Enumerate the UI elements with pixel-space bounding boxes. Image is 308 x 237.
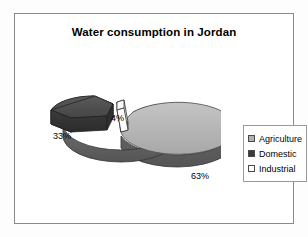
- legend-label-agriculture: Agriculture: [259, 134, 302, 144]
- chart-frame: Water consumption in Jordan: [14, 13, 294, 224]
- pie-label-industrial: 4%: [111, 113, 124, 123]
- chart-page: Water consumption in Jordan: [0, 0, 308, 237]
- legend-label-industrial: Industrial: [259, 164, 296, 174]
- legend-swatch-agriculture: [248, 135, 255, 142]
- chart-legend: Agriculture Domestic Industrial: [243, 125, 307, 182]
- legend-item-agriculture: Agriculture: [248, 131, 303, 146]
- chart-title: Water consumption in Jordan: [15, 26, 293, 38]
- legend-item-industrial: Industrial: [248, 161, 303, 176]
- legend-item-domestic: Domestic: [248, 146, 303, 161]
- legend-swatch-industrial: [248, 165, 255, 172]
- pie-label-agriculture: 63%: [191, 171, 209, 181]
- pie-label-domestic: 33%: [53, 131, 71, 141]
- pie-slice-domestic: [51, 96, 113, 132]
- legend-label-domestic: Domestic: [259, 149, 297, 159]
- legend-swatch-domestic: [248, 150, 255, 157]
